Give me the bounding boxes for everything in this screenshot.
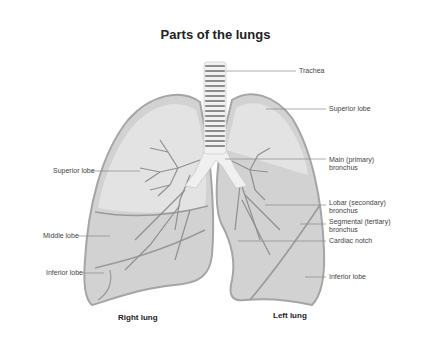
- label-inferior-lobe-right-lung: Inferior lobe: [46, 269, 83, 277]
- trachea-shape: [204, 62, 226, 154]
- label-middle-lobe: Middle lobe: [43, 232, 79, 240]
- label-inferior-lobe-left-lung: Inferior lobe: [329, 273, 366, 281]
- left-lung-shape: [217, 94, 325, 305]
- caption-left-lung: Left lung: [273, 311, 307, 320]
- caption-right-lung: Right lung: [118, 313, 158, 322]
- right-lung-shape: [84, 95, 213, 305]
- label-segmental-bronchus: Segmental (tertiary) bronchus: [329, 218, 390, 234]
- label-trachea: Trachea: [299, 67, 324, 75]
- label-superior-lobe-right-lung: Superior lobe: [53, 167, 95, 175]
- label-cardiac-notch: Cardiac notch: [329, 237, 372, 245]
- label-lobar-bronchus: Lobar (secondary) bronchus: [329, 199, 386, 215]
- label-superior-lobe-left-lung: Superior lobe: [329, 105, 371, 113]
- label-main-bronchus: Main (primary) bronchus: [329, 156, 374, 172]
